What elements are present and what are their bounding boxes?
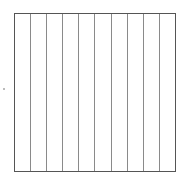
stray-mark (3, 88, 5, 90)
strip (95, 14, 111, 171)
divided-square (14, 13, 176, 172)
strip (79, 14, 95, 171)
strip (128, 14, 144, 171)
strip (144, 14, 160, 171)
strip (160, 14, 175, 171)
strip (31, 14, 47, 171)
strip (63, 14, 79, 171)
strip (15, 14, 31, 171)
strip (112, 14, 128, 171)
strip (47, 14, 63, 171)
